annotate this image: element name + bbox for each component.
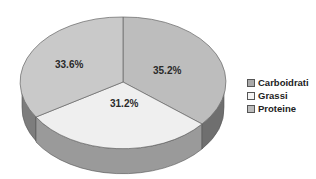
- legend-swatch: [247, 79, 255, 87]
- label-carboidrati: 35.2%: [153, 65, 181, 76]
- legend-label: Carboidrati: [258, 77, 309, 88]
- legend-swatch: [247, 105, 255, 113]
- pie-top: [20, 17, 226, 149]
- label-proteine: 33.6%: [55, 59, 83, 70]
- legend-item-proteine: Proteine: [247, 102, 309, 115]
- legend-swatch: [247, 92, 255, 100]
- legend-label: Proteine: [258, 103, 296, 114]
- legend-item-grassi: Grassi: [247, 89, 309, 102]
- legend-item-carboidrati: Carboidrati: [247, 76, 309, 89]
- legend: Carboidrati Grassi Proteine: [247, 76, 309, 115]
- legend-label: Grassi: [258, 90, 288, 101]
- label-grassi: 31.2%: [110, 98, 138, 109]
